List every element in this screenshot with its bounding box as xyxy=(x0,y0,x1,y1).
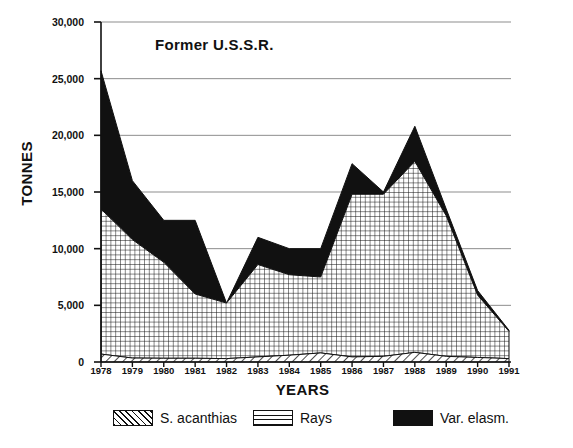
y-tick-label: 20,000 xyxy=(52,129,84,141)
x-tick-label: 1982 xyxy=(210,365,244,376)
x-tick-label: 1988 xyxy=(398,365,432,376)
legend-label-var-elasm: Var. elasm. xyxy=(440,410,509,426)
y-tick-label: 5,000 xyxy=(58,299,84,311)
legend-item-rays: Rays xyxy=(253,410,332,426)
chart-legend: S. acanthias Rays Var. elasm. xyxy=(0,410,573,440)
y-tick-label: 30,000 xyxy=(52,16,84,28)
x-tick-label: 1987 xyxy=(366,365,400,376)
chart-title: Former U.S.S.R. xyxy=(155,36,274,53)
legend-swatch-cross-hatch-icon xyxy=(253,410,293,426)
x-tick-label: 1985 xyxy=(304,365,338,376)
x-tick-label: 1978 xyxy=(84,365,118,376)
legend-label-rays: Rays xyxy=(300,410,332,426)
legend-swatch-diagonal-hatch-icon xyxy=(113,410,153,426)
area-series-group xyxy=(101,71,509,362)
y-tick-label: 10,000 xyxy=(52,243,84,255)
y-tick-label: 15,000 xyxy=(52,186,84,198)
x-tick-label: 1991 xyxy=(492,365,526,376)
x-tick-label: 1979 xyxy=(115,365,149,376)
x-axis-title: YEARS xyxy=(95,381,510,398)
x-tick-label: 1981 xyxy=(178,365,212,376)
y-tick-label: 25,000 xyxy=(52,73,84,85)
x-tick-label: 1983 xyxy=(241,365,275,376)
y-axis-ticks xyxy=(94,22,101,362)
legend-swatch-solid-icon xyxy=(393,410,433,426)
y-axis-title: TONNES xyxy=(18,104,35,244)
x-tick-label: 1980 xyxy=(147,365,181,376)
x-tick-label: 1986 xyxy=(335,365,369,376)
legend-item-s-acanthias: S. acanthias xyxy=(113,410,237,426)
legend-label-s-acanthias: S. acanthias xyxy=(160,410,237,426)
x-tick-label: 1989 xyxy=(429,365,463,376)
x-tick-label: 1984 xyxy=(272,365,306,376)
chart-figure: 05,00010,00015,00020,00025,00030,000 197… xyxy=(0,0,573,448)
x-tick-label: 1990 xyxy=(461,365,495,376)
legend-item-var-elasm: Var. elasm. xyxy=(393,410,509,426)
